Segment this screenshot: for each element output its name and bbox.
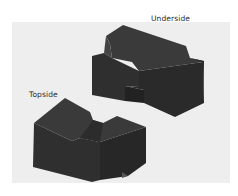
- underside-block: [92, 25, 204, 117]
- topside-block: [33, 98, 146, 182]
- topside-label: Topside: [29, 90, 58, 99]
- underside-label: Underside: [151, 14, 190, 23]
